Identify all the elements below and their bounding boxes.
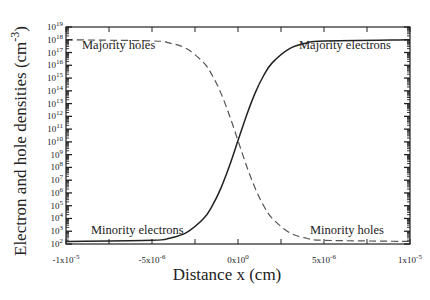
y-tick-label: 1012 bbox=[47, 109, 63, 121]
y-axis-title-main: Electron and hole densities (cm bbox=[11, 42, 30, 256]
x-tick-label: 0x100 bbox=[227, 253, 249, 265]
y-axis-title-close: ) bbox=[11, 26, 30, 32]
y-tick-label: 1013 bbox=[47, 97, 63, 109]
x-tick-label: -5x10-6 bbox=[139, 253, 166, 265]
label-majority-holes: Majority holes bbox=[82, 38, 155, 53]
y-tick-label: 105 bbox=[51, 199, 64, 211]
y-tick-label: 1014 bbox=[47, 84, 63, 96]
ticks-group bbox=[66, 27, 410, 244]
y-tick-label: 1018 bbox=[47, 33, 63, 45]
y-tick-label: 104 bbox=[51, 211, 64, 223]
curves-group bbox=[66, 40, 410, 242]
y-tick-label: 1015 bbox=[47, 71, 63, 83]
y-tick-label: 1011 bbox=[47, 122, 63, 134]
label-minority-holes: Minority holes bbox=[310, 223, 384, 238]
label-majority-electrons: Majority electrons bbox=[299, 38, 391, 53]
y-tick-label: 1016 bbox=[47, 58, 63, 70]
y-tick-label: 106 bbox=[51, 186, 64, 198]
label-minority-electrons: Minority electrons bbox=[91, 223, 184, 238]
x-axis-title: Distance x (cm) bbox=[0, 265, 430, 285]
x-tick-label: 1x10-5 bbox=[398, 253, 422, 265]
chart-area: 1019101810171016101510141013101210111010… bbox=[0, 0, 430, 300]
x-tick-label: -1x10-5 bbox=[53, 253, 80, 265]
y-tick-label: 1017 bbox=[47, 46, 63, 58]
y-tick-label: 107 bbox=[51, 173, 64, 185]
y-axis-title-exponent: -3 bbox=[8, 32, 22, 42]
y-tick-label: 1019 bbox=[47, 20, 63, 32]
curve-electrons bbox=[66, 40, 410, 242]
y-tick-label: 102 bbox=[51, 237, 64, 249]
y-tick-label: 108 bbox=[51, 160, 64, 172]
y-tick-label: 109 bbox=[51, 148, 64, 160]
x-tick-label: 5x10-6 bbox=[312, 253, 336, 265]
plot-frame bbox=[66, 27, 410, 244]
y-tick-label: 103 bbox=[51, 224, 64, 236]
y-tick-label: 1010 bbox=[47, 135, 63, 147]
